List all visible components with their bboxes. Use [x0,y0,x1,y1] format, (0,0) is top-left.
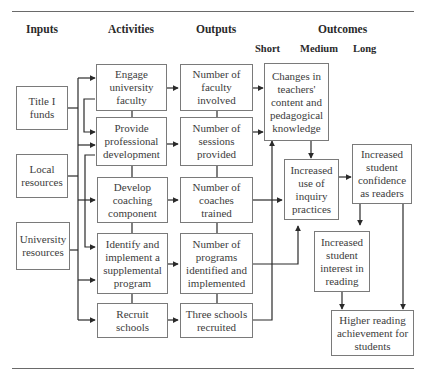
arrow-programs-medium [253,226,298,264]
output-faculty-involved: Number of faculty involved [180,64,253,111]
arrow-recruited-short [253,141,272,320]
outcome-long-reading-achievement: Higher reading achievement for students [331,310,414,356]
outcome-medium-inquiry-practices: Increased use of inquiry practices [284,159,339,220]
output-schools-recruited: Three schools recruited [180,303,253,338]
activity-engage-faculty: Engage university faculty [96,64,167,111]
input-local-resources: Local resources [16,154,68,198]
activity-develop-coaching: Develop coaching component [97,177,168,223]
outcome-long-student-interest: Increased student interest in reading [314,231,370,292]
activity-identify-program: Identify and implement a supplemental pr… [97,233,168,294]
arrow-engage-to-provide [84,99,95,132]
arrow-provide-to-identify [85,155,95,247]
input-title1-funds: Title I funds [16,86,68,130]
output-coaches-trained: Number of coaches trained [180,177,253,223]
activity-recruit-schools: Recruit schools [97,303,168,338]
outcome-long-student-confidence: Increased student confidence as readers [352,144,412,204]
output-sessions-provided: Number of sessions provided [180,117,253,166]
activity-provide-pd: Provide professional development [96,117,167,166]
output-programs-identified: Number of programs identified and implem… [180,233,253,294]
outcome-short-teacher-knowledge: Changes in teachers' content and pedagog… [264,63,329,141]
input-university-resources: University resources [16,222,70,270]
